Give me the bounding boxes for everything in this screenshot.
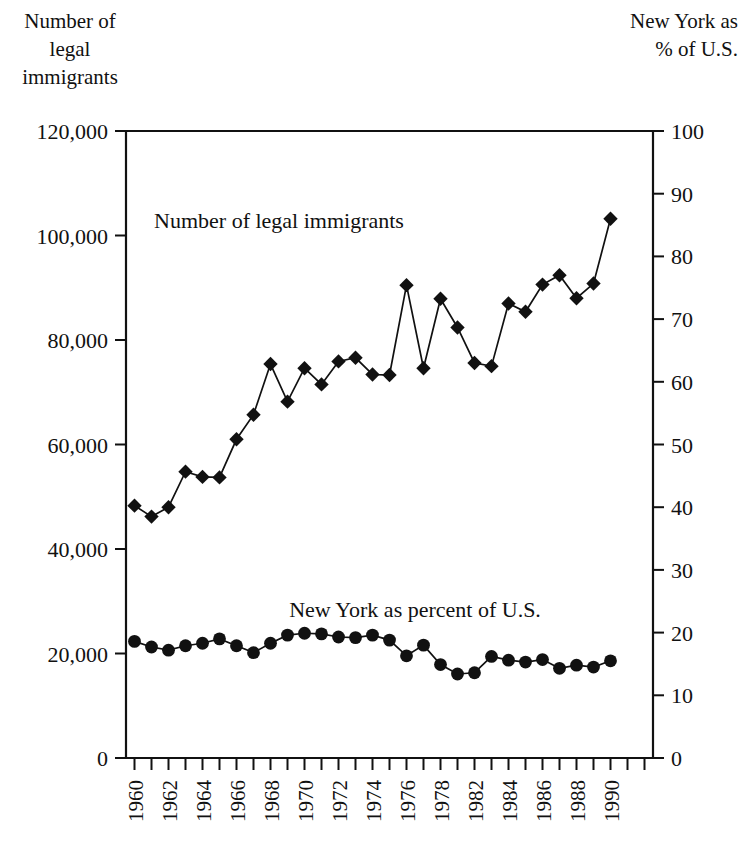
data-point-marker <box>587 661 600 674</box>
x-tick-label: 1988 <box>566 780 590 822</box>
right-tick-label: 50 <box>671 433 693 458</box>
data-point-marker <box>349 631 362 644</box>
data-point-marker <box>536 653 549 666</box>
left-tick-label: 40,000 <box>48 537 109 562</box>
data-point-marker <box>383 634 396 647</box>
x-tick-label: 1970 <box>294 780 318 822</box>
data-point-marker <box>213 632 226 645</box>
data-point-marker <box>519 656 532 669</box>
data-point-marker <box>196 637 209 650</box>
right-tick-label: 40 <box>671 495 693 520</box>
left-tick-label: 120,000 <box>37 119 109 144</box>
right-tick-label: 20 <box>671 621 693 646</box>
x-tick-label: 1974 <box>362 780 386 823</box>
data-point-marker <box>485 650 498 663</box>
data-point-marker <box>366 629 379 642</box>
data-point-marker <box>502 654 515 667</box>
data-point-marker <box>570 659 583 672</box>
left-tick-label: 0 <box>97 746 108 771</box>
data-point-marker <box>604 654 617 667</box>
data-point-marker <box>451 668 464 681</box>
right-tick-label: 80 <box>671 244 693 269</box>
x-tick-label: 1976 <box>396 780 420 822</box>
right-tick-label: 30 <box>671 558 693 583</box>
data-point-marker <box>315 627 328 640</box>
right-axis-title-line-2: % of U.S. <box>655 37 738 61</box>
left-axis-title-line-3: immigrants <box>22 65 118 89</box>
right-tick-label: 70 <box>671 307 693 332</box>
left-tick-label: 80,000 <box>48 328 109 353</box>
right-tick-label: 10 <box>671 683 693 708</box>
x-tick-label: 1964 <box>192 780 216 823</box>
x-tick-label: 1966 <box>226 780 250 822</box>
x-tick-label: 1984 <box>498 780 522 823</box>
right-tick-label: 0 <box>671 746 682 771</box>
data-point-marker <box>128 635 141 648</box>
data-point-marker <box>332 631 345 644</box>
data-point-marker <box>434 658 447 671</box>
x-tick-label: 1972 <box>328 780 352 822</box>
x-tick-label: 1968 <box>260 780 284 822</box>
data-point-marker <box>179 639 192 652</box>
left-axis-title-line-2: legal <box>50 37 91 61</box>
right-tick-label: 100 <box>671 119 704 144</box>
figure-background <box>0 0 749 851</box>
right-tick-label: 90 <box>671 182 693 207</box>
series-annotation-label: Number of legal immigrants <box>154 208 404 233</box>
left-tick-label: 100,000 <box>37 224 109 249</box>
x-tick-label: 1990 <box>600 780 624 822</box>
immigration-chart-figure: Number of legal immigrants New York as %… <box>0 0 749 851</box>
data-point-marker <box>298 627 311 640</box>
data-point-marker <box>553 662 566 675</box>
data-point-marker <box>162 644 175 657</box>
x-tick-label: 1962 <box>158 780 182 822</box>
data-point-marker <box>247 646 260 659</box>
left-tick-label: 20,000 <box>48 642 109 667</box>
x-tick-label: 1986 <box>532 780 556 822</box>
data-point-marker <box>400 649 413 662</box>
data-point-marker <box>145 641 158 654</box>
x-tick-label: 1978 <box>430 780 454 822</box>
data-point-marker <box>264 637 277 650</box>
data-point-marker <box>281 629 294 642</box>
right-axis-title-line-1: New York as <box>630 9 738 33</box>
series-annotation-label: New York as percent of U.S. <box>289 597 541 622</box>
x-tick-label: 1982 <box>464 780 488 822</box>
data-point-marker <box>417 639 430 652</box>
x-tick-label: 1960 <box>124 780 148 822</box>
data-point-marker <box>230 639 243 652</box>
right-tick-label: 60 <box>671 370 693 395</box>
left-axis-title-line-1: Number of <box>24 9 116 33</box>
data-point-marker <box>468 666 481 679</box>
left-tick-label: 60,000 <box>48 433 109 458</box>
